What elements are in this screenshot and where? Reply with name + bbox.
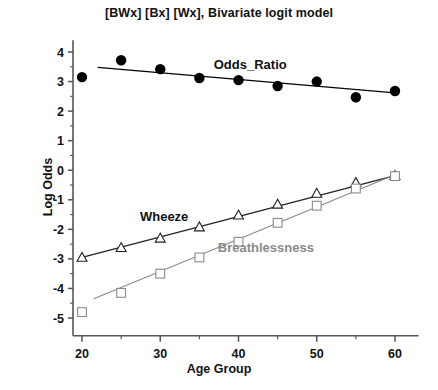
chart-figure: [BWx] [Bx] [Wx], Bivariate logit model L… xyxy=(0,0,438,390)
y-tick-label: -3 xyxy=(53,252,64,266)
series-annotation-odds_ratio: Odds_Ratio xyxy=(214,57,287,72)
marker-breathlessness xyxy=(195,253,204,262)
marker-odds_ratio xyxy=(233,75,243,85)
x-tick-label: 50 xyxy=(310,347,324,361)
marker-breathlessness xyxy=(312,201,321,210)
marker-breathlessness xyxy=(391,172,400,181)
marker-odds_ratio xyxy=(312,76,322,86)
y-tick-label: 1 xyxy=(57,134,64,148)
marker-breathlessness xyxy=(156,269,165,278)
y-tick-label: 3 xyxy=(57,75,64,89)
y-tick-label: 4 xyxy=(57,46,64,60)
marker-odds_ratio xyxy=(155,64,165,74)
y-tick-label: -5 xyxy=(53,312,64,326)
x-tick-label: 60 xyxy=(388,347,402,361)
marker-wheeze xyxy=(312,188,322,197)
marker-wheeze xyxy=(234,210,244,219)
marker-wheeze xyxy=(273,199,283,208)
fit-line-breathlessness xyxy=(94,175,395,299)
marker-breathlessness xyxy=(78,308,87,317)
y-tick-label: -2 xyxy=(53,223,64,237)
marker-wheeze xyxy=(116,243,126,252)
series-annotation-wheeze: Wheeze xyxy=(140,209,188,224)
marker-breathlessness xyxy=(117,288,126,297)
x-tick-label: 20 xyxy=(75,347,89,361)
x-tick-label: 40 xyxy=(232,347,246,361)
plot-area: 43210-1-2-3-4-52030405060Odds_RatioWheez… xyxy=(0,0,438,390)
y-tick-label: 2 xyxy=(57,105,64,119)
y-tick-label: 0 xyxy=(57,164,64,178)
marker-breathlessness xyxy=(273,218,282,227)
marker-odds_ratio xyxy=(194,73,204,83)
marker-odds_ratio xyxy=(116,55,126,65)
marker-odds_ratio xyxy=(77,72,87,82)
marker-odds_ratio xyxy=(351,92,361,102)
x-tick-label: 30 xyxy=(153,347,167,361)
y-tick-label: -4 xyxy=(53,282,64,296)
series-annotation-breathlessness: Breathlessness xyxy=(218,240,314,255)
marker-breathlessness xyxy=(351,184,360,193)
marker-odds_ratio xyxy=(390,86,400,96)
marker-odds_ratio xyxy=(272,81,282,91)
y-tick-label: -1 xyxy=(53,193,64,207)
